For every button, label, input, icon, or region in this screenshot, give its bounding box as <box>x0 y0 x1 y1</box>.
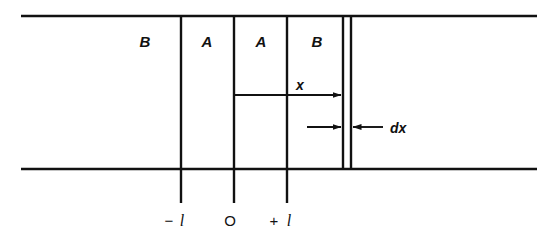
diagram-canvas: B A A B x dx − l O + l <box>0 0 543 236</box>
region-label-a-right: A <box>255 33 267 50</box>
dx-measurement-label: dx <box>390 120 408 136</box>
region-label-b-right: B <box>312 33 323 50</box>
axis-tick-plus-sign: + <box>270 212 279 229</box>
region-label-a-left: A <box>201 33 213 50</box>
axis-tick-origin-symbol: O <box>224 212 236 229</box>
x-measurement-label: x <box>295 77 305 93</box>
region-label-b-left: B <box>140 33 151 50</box>
potential-well-diagram: B A A B x dx − l O + l <box>0 0 543 236</box>
axis-tick-plus-l-symbol: l <box>287 212 292 229</box>
axis-tick-minus-sign: − <box>165 212 174 229</box>
axis-tick-minus-l-symbol: l <box>180 212 185 229</box>
